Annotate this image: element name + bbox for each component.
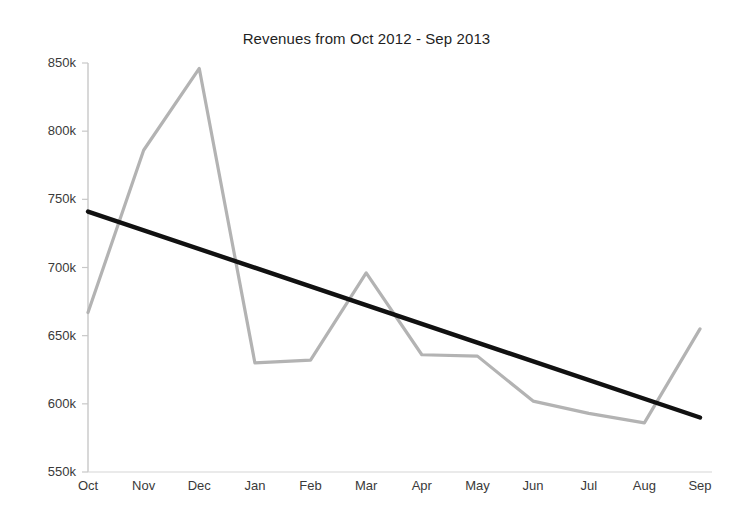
x-axis-label-group: OctNovDecJanFebMarAprMayJunJulAugSep — [0, 0, 733, 531]
x-axis-tick-label: Aug — [616, 479, 672, 493]
x-axis-tick-label: Jan — [227, 479, 283, 493]
x-axis-tick-label: Feb — [283, 479, 339, 493]
x-axis-tick-label: Dec — [171, 479, 227, 493]
x-axis-tick-label: Mar — [338, 479, 394, 493]
x-axis-tick-label: Sep — [672, 479, 728, 493]
x-axis-tick-label: Oct — [60, 479, 116, 493]
revenue-line-chart: Revenues from Oct 2012 - Sep 2013 550k60… — [0, 0, 733, 531]
x-axis-tick-label: May — [449, 479, 505, 493]
x-axis-tick-label: Jun — [505, 479, 561, 493]
x-axis-tick-label: Apr — [394, 479, 450, 493]
x-axis-tick-label: Nov — [116, 479, 172, 493]
x-axis-tick-label: Jul — [561, 479, 617, 493]
